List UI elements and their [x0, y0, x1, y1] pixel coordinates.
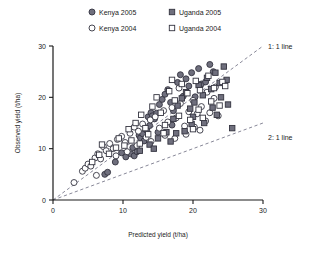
y-tick-label: 0	[42, 197, 46, 204]
data-point	[189, 70, 195, 76]
data-point	[177, 72, 183, 78]
data-point	[150, 104, 155, 109]
data-point	[174, 131, 179, 136]
data-point	[171, 116, 176, 121]
data-point	[230, 125, 235, 130]
data-point	[122, 143, 127, 148]
x-tick-label: 0	[51, 207, 55, 214]
data-point	[90, 159, 95, 164]
legend-label: Kenya 2004	[99, 25, 136, 33]
data-point	[135, 128, 141, 134]
data-point	[116, 136, 121, 141]
y-tick-label: 30	[38, 43, 46, 50]
data-point	[210, 105, 215, 110]
data-point	[152, 114, 158, 120]
legend-marker	[169, 25, 174, 30]
data-point	[93, 172, 99, 178]
legend-marker	[89, 25, 95, 31]
y-tick-label: 10	[38, 145, 46, 152]
data-point	[168, 139, 173, 144]
data-point	[200, 115, 205, 120]
data-point	[196, 66, 202, 72]
data-point	[188, 117, 193, 122]
data-point	[167, 88, 172, 93]
data-point	[176, 113, 181, 118]
data-point	[207, 61, 213, 67]
data-point	[99, 142, 104, 147]
x-tick-label: 10	[119, 207, 127, 214]
data-point	[137, 148, 142, 153]
data-point	[223, 83, 228, 88]
data-point	[112, 159, 118, 165]
data-point	[197, 87, 202, 92]
data-point	[214, 112, 219, 117]
plot-canvas: Kenya 2005Uganda 2005Kenya 2004Uganda 20…	[0, 0, 316, 253]
line-annotations: 1: 1 line2: 1 line	[268, 43, 293, 141]
data-point	[175, 103, 180, 108]
legend: Kenya 2005Uganda 2005Kenya 2004Uganda 20…	[89, 9, 221, 33]
annotation-2-1-line: 2: 1 line	[268, 134, 293, 141]
data-point	[209, 99, 214, 104]
data-point	[206, 73, 211, 78]
data-point	[71, 180, 77, 186]
data-point	[179, 96, 184, 101]
data-point	[211, 85, 216, 90]
data-point	[151, 146, 156, 151]
y-axis-title: Observed yield (t/ha)	[14, 93, 22, 153]
data-point	[185, 91, 190, 96]
data-point	[133, 120, 138, 125]
data-point	[200, 93, 205, 98]
data-point	[113, 153, 119, 159]
reference-line-1-1	[53, 46, 263, 200]
data-point	[213, 70, 218, 75]
data-point	[193, 78, 198, 83]
x-tick-label: 30	[259, 207, 267, 214]
data-point	[161, 131, 166, 136]
data-point	[113, 145, 118, 150]
legend-label: Kenya 2005	[99, 9, 136, 17]
data-point	[225, 102, 230, 107]
data-point	[146, 132, 151, 137]
data-point	[126, 126, 131, 131]
legend-label: Uganda 2005	[179, 9, 221, 17]
data-point	[197, 127, 203, 133]
data-point	[192, 100, 197, 105]
series-kenya-2005	[102, 61, 217, 177]
reference-lines	[53, 46, 263, 200]
data-point	[196, 107, 201, 112]
data-point	[172, 98, 177, 103]
data-point	[154, 95, 159, 100]
data-point	[97, 152, 102, 157]
legend-marker	[89, 9, 95, 15]
data-point	[106, 151, 111, 156]
x-axis-title: Predicted yield (t/ha)	[128, 231, 188, 239]
data-point	[105, 169, 111, 175]
data-point	[137, 141, 142, 146]
data-point	[202, 120, 207, 125]
data-point	[139, 112, 144, 117]
legend-marker	[169, 9, 174, 14]
scatter-plot-figure: Kenya 2005Uganda 2005Kenya 2004Uganda 20…	[0, 0, 316, 253]
data-point	[169, 105, 175, 111]
data-point	[155, 136, 160, 141]
data-point	[179, 81, 184, 86]
x-tick-label: 20	[189, 207, 197, 214]
data-point	[182, 129, 187, 134]
data-point	[186, 83, 192, 89]
data-points	[71, 61, 235, 185]
data-point	[162, 122, 167, 127]
y-tick-label: 20	[38, 94, 46, 101]
data-point	[188, 106, 193, 111]
data-point	[169, 77, 174, 82]
annotation-1-1-line: 1: 1 line	[268, 43, 293, 50]
data-point	[221, 64, 226, 69]
data-point	[143, 125, 148, 130]
data-point	[124, 149, 130, 155]
data-point	[218, 95, 223, 100]
data-point	[217, 103, 222, 108]
data-point	[129, 138, 134, 143]
legend-label: Uganda 2004	[179, 25, 221, 33]
data-point	[158, 110, 163, 115]
data-point	[190, 126, 195, 131]
